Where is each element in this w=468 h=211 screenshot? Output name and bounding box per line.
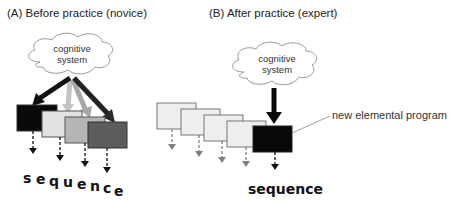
output-arrowheads-a: [29, 148, 111, 173]
svg-text:n: n: [90, 178, 100, 194]
down-arrow-icon: [56, 155, 64, 161]
panel-a: cognitive system: [17, 33, 127, 199]
program-box-a4: [88, 122, 127, 148]
down-arrow-icon: [81, 161, 89, 167]
cloud-b-line2: system: [262, 64, 292, 75]
annotation-leader-line: [292, 116, 330, 133]
cloud-a-line1: cognitive: [53, 43, 91, 54]
sequence-label-b: sequence: [248, 181, 323, 197]
cloud-b-icon: cognitive system: [233, 42, 317, 85]
svg-text:c: c: [103, 180, 111, 196]
annotation-new-elemental-program: new elemental program: [332, 109, 447, 121]
panel-b: cognitive system new elemental program: [157, 42, 447, 197]
down-arrow-icon: [242, 161, 250, 167]
svg-text:e: e: [114, 183, 124, 199]
svg-text:u: u: [63, 174, 73, 190]
svg-text:e: e: [36, 171, 46, 187]
down-arrow-icon: [103, 167, 111, 173]
new-elemental-program-box: [253, 126, 292, 152]
cloud-a-line2: system: [57, 54, 87, 65]
down-arrow-icon: [168, 144, 176, 150]
svg-text:q: q: [49, 173, 59, 189]
down-arrow-icon: [29, 148, 37, 154]
svg-text:s: s: [23, 170, 31, 186]
diagram-canvas: cognitive system: [0, 0, 468, 211]
down-arrow-icon: [218, 157, 226, 163]
cloud-a-icon: cognitive system: [29, 33, 113, 74]
arrow-head-icon: [266, 112, 282, 124]
cloud-b-line1: cognitive: [258, 53, 296, 64]
svg-text:e: e: [77, 176, 87, 192]
down-arrow-icon: [271, 164, 279, 170]
sequence-label-a: s e q u e n c e: [23, 170, 124, 199]
down-arrow-icon: [195, 151, 203, 157]
